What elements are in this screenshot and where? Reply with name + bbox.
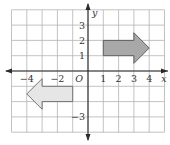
x-tick-label: −2 xyxy=(50,73,64,84)
x-tick-label: 3 xyxy=(131,73,137,84)
x-axis-label: x xyxy=(161,73,167,84)
x-tick-label: −4 xyxy=(20,73,34,84)
axes xyxy=(5,3,168,141)
x-tick-label: 2 xyxy=(116,73,122,84)
y-tick-label: 2 xyxy=(79,35,85,46)
coordinate-grid-diagram: −4−21234321−3Oxy xyxy=(0,0,170,145)
y-axis-label: y xyxy=(91,7,98,18)
y-axis-arrow-up-icon xyxy=(86,3,91,10)
y-tick-label: −3 xyxy=(71,111,85,122)
x-tick-label: 4 xyxy=(146,73,152,84)
y-tick-label: 3 xyxy=(79,20,85,31)
x-tick-label: 1 xyxy=(100,73,106,84)
y-axis-arrow-down-icon xyxy=(86,134,91,141)
right-arrow-shape xyxy=(103,33,149,64)
origin-label: O xyxy=(75,73,83,84)
y-tick-label: 1 xyxy=(79,50,85,61)
x-axis-arrow-left-icon xyxy=(5,69,12,74)
